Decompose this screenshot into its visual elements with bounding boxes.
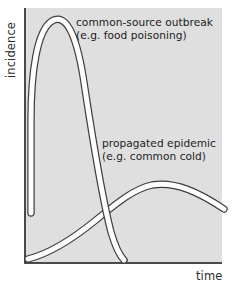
annotation-common-source-line2: (e.g. food poisoning) bbox=[76, 29, 213, 42]
annotation-propagated-epidemic: propagated epidemic (e.g. common cold) bbox=[102, 137, 216, 162]
curve-propagated-epidemic bbox=[28, 184, 224, 259]
annotation-common-source: common-source outbreak (e.g. food poison… bbox=[76, 16, 213, 41]
x-axis-label: time bbox=[196, 269, 222, 283]
annotation-common-source-line1: common-source outbreak bbox=[76, 16, 213, 28]
annotation-propagated-line2: (e.g. common cold) bbox=[102, 150, 216, 163]
annotation-propagated-line1: propagated epidemic bbox=[102, 137, 216, 149]
epidemic-curve-figure: incidence common-source outbreak (e.g. f… bbox=[0, 0, 234, 290]
